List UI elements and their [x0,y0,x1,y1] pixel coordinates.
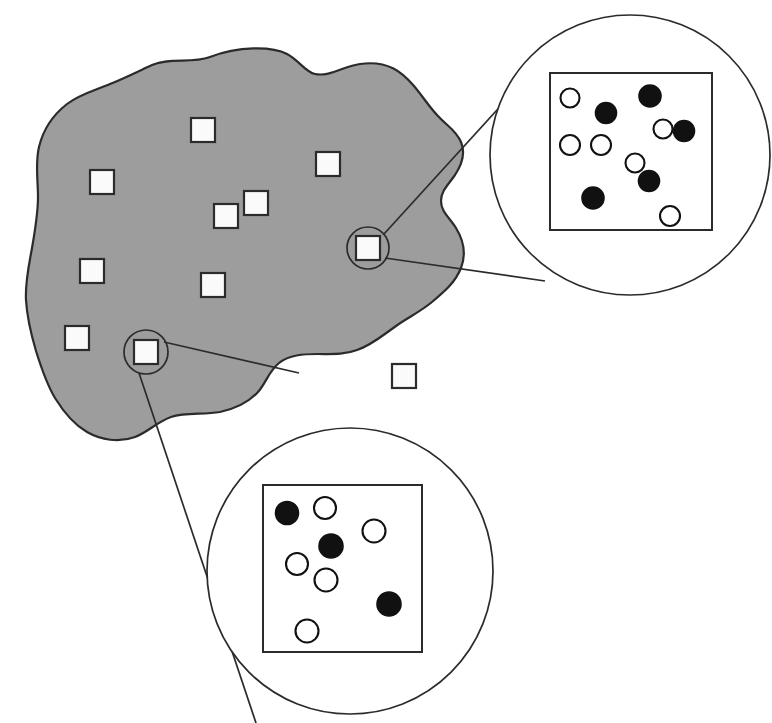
inset-frame-upper-dot-open-u7 [591,135,611,155]
plot-11-circled-lower [134,340,158,364]
figure-root [0,0,772,723]
inset-frame-upper-dot-filled-u9 [639,171,660,192]
plot-6 [80,259,104,283]
plot-9 [392,364,416,388]
inset-frame-lower-dot-open-l6 [315,569,338,592]
inset-frame-upper-dot-filled-u5 [674,121,695,142]
inset-frame-lower-dot-open-l5 [286,553,308,575]
inset-frame-upper-dot-open-u4 [654,120,673,139]
plot-3 [316,152,340,176]
inset-frame-upper-dot-open-u8 [626,154,645,173]
inset-frame-upper-dot-open-u1 [561,89,580,108]
inset-frame-upper-dot-filled-u10 [582,187,604,209]
inset-frame-lower-dot-filled-l7 [377,592,401,616]
inset-frame-upper-dot-open-u6 [560,135,580,155]
plot-8 [65,326,89,350]
inset-frame-upper-dot-filled-u3 [639,85,661,107]
inset-frame-lower-dot-open-l2 [314,497,336,519]
plot-10-circled-upper [356,236,380,260]
inset-frame-lower-dot-filled-l1 [276,502,299,525]
plot-4 [244,191,268,215]
nested-sampling-diagram [0,0,772,723]
inset-frame-lower-dot-open-l3 [363,520,386,543]
plot-1 [191,118,215,142]
plot-5 [214,204,238,228]
inset-frame-lower-dot-open-l8 [296,620,319,643]
inset-frame-upper-dot-open-u11 [660,206,680,226]
plot-7 [201,273,225,297]
inset-frame-lower-dot-filled-l4 [319,534,343,558]
plot-2 [90,170,114,194]
inset-frame-upper-dot-filled-u2 [596,103,617,124]
